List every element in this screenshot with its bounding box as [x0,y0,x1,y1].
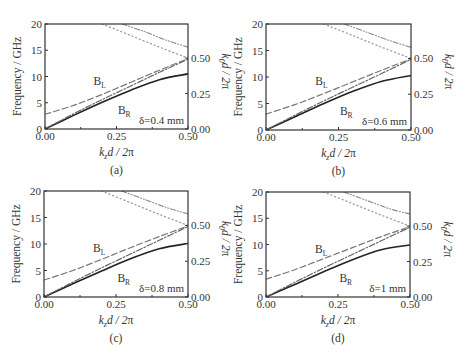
series-line [44,226,188,280]
y-tick-label: 0 [258,124,264,136]
y-right-axis-label: k0d / 2π [439,222,454,258]
figure-svg: 0.000.250.50051015200.000.250.50Frequenc… [0,0,467,358]
x-axis-label: kzd / 2π [321,147,356,162]
y-right-tick-label: 0.25 [191,255,211,267]
band-label-BR: BR [340,105,353,120]
y-right-axis-label: k0d / 2π [217,221,232,257]
y-tick-label: 20 [252,186,264,198]
x-tick-label: 0.25 [107,130,127,142]
y-axis-label: Frequency / GHz [232,37,245,116]
y-right-tick-label: 0.00 [191,291,211,303]
panel-d: 0.000.250.50051015200.000.250.50Frequenc… [232,186,454,345]
y-right-axis-label: k0d / 2π [217,54,232,90]
series-line [122,191,188,214]
panel-b: 0.000.250.50051015200.000.250.50Frequenc… [232,18,455,178]
delta-annotation: δ=0.4 mm [139,114,184,126]
panel-a: 0.000.250.50051015200.000.250.50Frequenc… [11,18,232,177]
y-tick-label: 10 [252,71,264,83]
y-tick-label: 15 [252,45,264,57]
band-label-BR: BR [339,272,352,287]
delta-annotation: δ=0.6 mm [362,115,407,127]
x-axis-label: kzd / 2π [99,146,134,161]
band-label-BR: BR [117,272,130,287]
y-right-tick-label: 0.00 [191,123,211,135]
band-label-BR: BR [118,104,131,119]
y-tick-label: 15 [31,44,43,56]
y-tick-label: 5 [37,97,43,109]
y-right-axis-label: k0d / 2π [440,54,455,90]
band-label-BL: BL [93,242,106,257]
series-line [102,24,188,58]
y-right-tick-label: 0.50 [414,52,434,64]
series-line [45,59,188,115]
band-label-BL: BL [315,75,328,90]
figure: 0.000.250.50051015200.000.250.50Frequenc… [0,0,467,358]
x-axis-label: kzd / 2π [99,314,134,329]
y-right-tick-label: 0.00 [414,124,434,136]
y-tick-label: 15 [252,212,264,224]
y-right-tick-label: 0.25 [414,88,434,100]
band-label-BL: BL [94,75,107,90]
y-axis-label: Frequency / GHz [10,204,23,283]
y-tick-label: 0 [36,291,42,303]
y-tick-label: 5 [36,265,42,277]
x-axis-label: kzd / 2π [321,314,356,329]
y-tick-label: 20 [252,18,264,30]
y-right-tick-label: 0.25 [413,256,433,268]
x-tick-label: 0.25 [106,298,126,310]
series-line [266,59,411,114]
y-tick-label: 10 [30,238,42,250]
band-label-BL: BL [315,243,328,258]
series-line [102,191,188,225]
y-tick-label: 0 [37,123,43,135]
y-axis-label: Frequency / GHz [11,37,24,116]
panel-caption: (d) [331,332,345,345]
y-right-tick-label: 0.50 [191,52,211,64]
y-right-tick-label: 0.00 [413,291,433,303]
delta-annotation: δ=1 mm [369,282,406,294]
y-right-tick-label: 0.50 [191,219,211,231]
panel-c: 0.000.250.50051015200.000.250.50Frequenc… [10,185,232,345]
y-tick-label: 20 [30,185,42,197]
y-right-tick-label: 0.25 [191,88,211,100]
y-tick-label: 20 [31,18,43,30]
series-line [324,24,411,58]
y-tick-label: 5 [258,265,264,277]
y-tick-label: 5 [258,98,264,110]
x-tick-label: 0.25 [329,131,349,143]
y-right-tick-label: 0.50 [413,220,433,232]
delta-annotation: δ=0.8 mm [139,282,184,294]
y-tick-label: 10 [31,71,43,83]
y-axis-label: Frequency / GHz [232,205,245,284]
panel-caption: (c) [110,332,123,345]
panel-caption: (b) [332,165,346,178]
panel-caption: (a) [110,164,123,177]
y-tick-label: 0 [258,291,264,303]
x-tick-label: 0.25 [328,298,348,310]
y-tick-label: 15 [30,212,42,224]
series-line [344,192,410,214]
series-line [324,192,410,226]
series-line [266,227,410,280]
y-tick-label: 10 [252,239,264,251]
